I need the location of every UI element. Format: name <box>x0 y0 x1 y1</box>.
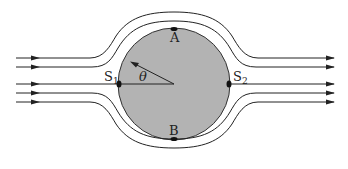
label-s1: S <box>104 69 113 84</box>
label-s2-sub: 2 <box>242 76 248 86</box>
point-s2 <box>227 81 232 88</box>
label-a: A <box>169 30 180 45</box>
label-theta: θ <box>139 69 147 84</box>
label-b: B <box>169 123 179 138</box>
label-s2: S <box>233 69 242 84</box>
flow-diagram: A B S 1 S 2 θ <box>0 0 348 169</box>
label-s1-sub: 1 <box>113 76 119 86</box>
outflow-arrows <box>326 56 335 105</box>
inflow-arrows <box>31 56 40 105</box>
